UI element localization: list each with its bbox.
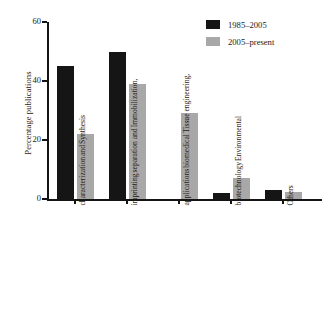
x-category-label-line: separation and — [131, 128, 140, 173]
y-tick-mark — [42, 21, 47, 22]
x-tick-3 — [230, 199, 231, 204]
y-tick-mark — [42, 198, 47, 199]
y-tick-label: 60 — [21, 16, 41, 26]
bar-series-0-cat-1 — [109, 52, 126, 200]
x-category-label-line: biomedical — [183, 134, 192, 169]
y-tick-label: 20 — [21, 134, 41, 144]
x-category-label-line: characterization — [79, 157, 88, 206]
y-tick-mark — [42, 139, 47, 140]
x-category-label-4: Others — [287, 185, 296, 206]
legend-swatch-icon-series-1 — [206, 37, 220, 46]
x-category-label-line: Tissue engineering, — [183, 73, 192, 133]
chart-legend: 1985–2005 2005–present — [206, 16, 326, 50]
x-tick-4 — [282, 199, 283, 204]
x-category-label-3: Environmentalbiotechnology — [235, 115, 244, 206]
legend-item-1: 2005–present — [206, 33, 326, 50]
bar-chart-figure: Percentage publications 0204060 Synthesi… — [0, 0, 330, 313]
x-category-label-line: imprinting — [131, 173, 140, 206]
x-category-label-line: applications — [183, 168, 192, 206]
x-category-label-line: Others — [287, 185, 296, 206]
x-category-label-2: Tissue engineering,biomedicalapplication… — [183, 73, 192, 206]
x-tick-0 — [74, 199, 75, 204]
y-axis-line — [47, 22, 49, 199]
legend-label-series-0: 1985–2005 — [228, 20, 267, 30]
x-category-label-line: biotechnology — [235, 162, 244, 206]
x-category-label-line: Synthesis — [79, 114, 88, 144]
bar-series-0-cat-4 — [265, 190, 282, 199]
y-tick-mark — [42, 80, 47, 81]
x-category-label-line: Environmental — [235, 115, 244, 161]
x-tick-1 — [126, 199, 127, 204]
x-category-label-0: Synthesisandcharacterization — [79, 114, 88, 206]
x-category-label-line: Immobilization, — [131, 78, 140, 128]
x-category-label-line: and — [79, 145, 88, 157]
y-tick-label: 0 — [21, 193, 41, 203]
bar-series-0-cat-3 — [213, 193, 230, 199]
x-category-label-1: Immobilization,separation andimprinting — [131, 78, 140, 206]
y-tick-label: 40 — [21, 75, 41, 85]
y-axis-title: Percentage publications — [23, 33, 33, 193]
x-tick-2 — [178, 199, 179, 204]
legend-item-0: 1985–2005 — [206, 16, 326, 33]
legend-label-series-1: 2005–present — [228, 37, 274, 47]
bar-series-0-cat-0 — [57, 66, 74, 199]
legend-swatch-icon-series-0 — [206, 20, 220, 29]
